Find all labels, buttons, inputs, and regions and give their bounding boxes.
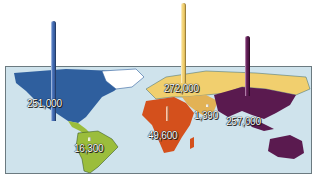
bar-middle-east (206, 104, 209, 107)
label-north-america: 251,000 (27, 98, 62, 109)
label-middle-east: 1,390 (194, 110, 218, 121)
bar-asia (245, 36, 250, 96)
label-asia: 257,000 (226, 116, 261, 127)
region-madagascar (190, 137, 194, 149)
label-europe: 272,000 (164, 83, 199, 94)
region-australia (268, 135, 304, 159)
bar-south-america (88, 137, 91, 141)
bar-europe (181, 3, 186, 83)
label-south-america: 16,300 (74, 143, 103, 154)
label-africa: 49,600 (148, 130, 177, 141)
bar-africa (166, 106, 169, 121)
